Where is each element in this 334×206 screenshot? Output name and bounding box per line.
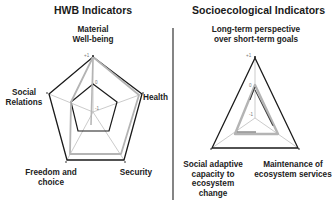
data-stroke (91, 57, 93, 125)
zero-level-polygon (236, 90, 276, 132)
tick-minus1: -1 (249, 112, 253, 117)
tick-minus1: -1 (95, 106, 99, 111)
hwb-data-polygon (70, 57, 139, 154)
tick-zero: 0 (249, 83, 252, 88)
socioecological-radar-chart (210, 56, 300, 150)
tick-plus1: +1 (84, 53, 89, 58)
tick-zero: 0 (95, 80, 98, 85)
tick-plus1: +1 (246, 53, 251, 58)
charts-canvas (0, 0, 334, 206)
zero-level-polygon (71, 84, 117, 131)
